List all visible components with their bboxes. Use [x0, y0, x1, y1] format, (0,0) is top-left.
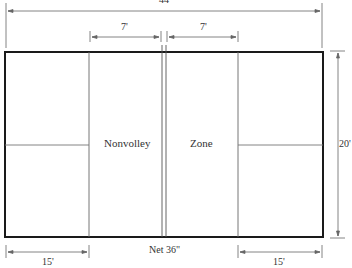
- court-diagram: [0, 0, 352, 268]
- baseline-right-label: 15': [273, 256, 285, 267]
- zone-label-left: Nonvolley: [104, 137, 150, 149]
- overall-length-dimension: [6, 3, 322, 48]
- width-label: 20': [339, 138, 351, 149]
- kitchen-right-label: 7': [200, 21, 207, 32]
- kitchen-dimensions: [90, 31, 238, 42]
- court-boundary: [5, 52, 323, 237]
- net-label: Net 36": [149, 244, 180, 255]
- kitchen-left-label: 7': [121, 21, 128, 32]
- overall-length-label: 44': [159, 0, 171, 5]
- baseline-left-label: 15': [42, 256, 54, 267]
- zone-label-right: Zone: [190, 137, 213, 149]
